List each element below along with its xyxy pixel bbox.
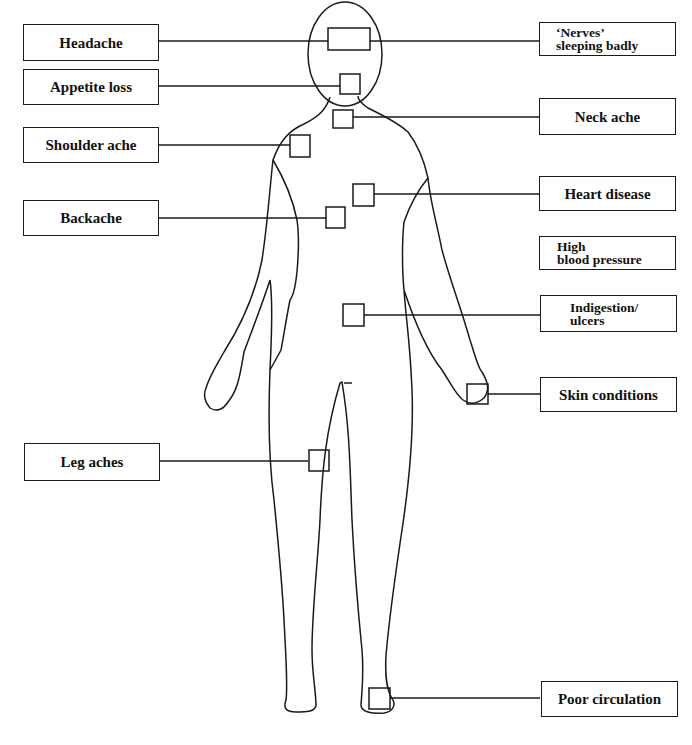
marker-headache[interactable] <box>328 28 370 50</box>
marker-back[interactable] <box>326 207 345 228</box>
marker-leg[interactable] <box>309 450 329 471</box>
label-appetite-loss[interactable]: Appetite loss <box>23 69 159 105</box>
label-poor-circulation[interactable]: Poor circulation <box>541 681 678 717</box>
label-heart-disease[interactable]: Heart disease <box>539 176 676 211</box>
label-shoulder-ache[interactable]: Shoulder ache <box>23 127 159 163</box>
label-nerves[interactable]: ‘Nerves’sleeping badly <box>539 22 676 56</box>
left-arm-inner <box>270 160 298 370</box>
marker-neck[interactable] <box>333 110 353 128</box>
label-leg-aches[interactable]: Leg aches <box>24 443 160 481</box>
marker-heart[interactable] <box>353 184 374 206</box>
marker-indigestion[interactable] <box>343 304 364 326</box>
marker-appetite[interactable] <box>340 74 360 94</box>
label-high-blood-pressure[interactable]: Highblood pressure <box>539 236 676 270</box>
label-backache[interactable]: Backache <box>23 200 159 236</box>
label-neck-ache[interactable]: Neck ache <box>539 98 676 135</box>
marker-skin[interactable] <box>467 384 488 404</box>
body-outline <box>205 96 488 713</box>
marker-shoulder[interactable] <box>290 135 310 157</box>
right-arm-inner <box>403 178 429 290</box>
label-headache[interactable]: Headache <box>23 24 159 61</box>
marker-circulation[interactable] <box>369 688 390 709</box>
label-skin-conditions[interactable]: Skin conditions <box>540 377 677 412</box>
head-outline <box>308 2 382 106</box>
label-indigestion[interactable]: Indigestion/ulcers <box>540 295 677 332</box>
